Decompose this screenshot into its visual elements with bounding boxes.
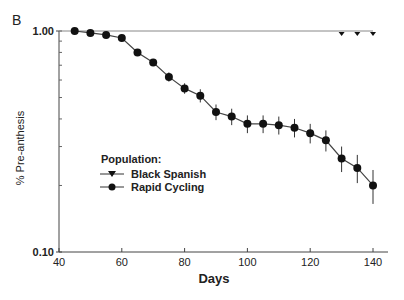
y-tick-label: 1.00 (33, 25, 54, 37)
data-point-rapid-cycling (259, 120, 267, 128)
data-point-rapid-cycling (306, 129, 314, 137)
data-point-rapid-cycling (165, 73, 173, 81)
data-point-rapid-cycling (102, 31, 110, 39)
data-point-rapid-cycling (118, 34, 126, 42)
data-point-rapid-cycling (86, 29, 94, 37)
legend-item-rapid-cycling: Rapid Cycling (100, 181, 204, 193)
data-point-rapid-cycling (149, 59, 157, 67)
data-point-rapid-cycling (291, 124, 299, 132)
data-point-rapid-cycling (369, 181, 377, 189)
legend-item-black-spanish: Black Spanish (100, 168, 206, 180)
circle-marker-icon (109, 184, 116, 191)
data-point-rapid-cycling (228, 113, 236, 121)
x-axis-title: Days (198, 271, 229, 286)
data-point-rapid-cycling (71, 27, 79, 35)
data-point-rapid-cycling (322, 136, 330, 144)
data-point-black-spanish (339, 32, 345, 36)
data-point-rapid-cycling (134, 48, 142, 56)
x-tick-label: 140 (364, 256, 382, 268)
data-point-black-spanish (370, 32, 376, 36)
chart: B 4060801001201400.101.00 % Pre-anthesis… (0, 0, 404, 300)
axes: 4060801001201400.101.00 (33, 25, 388, 268)
data-point-rapid-cycling (243, 120, 251, 128)
data-point-rapid-cycling (212, 108, 220, 116)
data-point-rapid-cycling (181, 84, 189, 92)
y-axis-title: % Pre-anthesis (14, 110, 26, 185)
legend-label: Rapid Cycling (131, 181, 204, 193)
data-point-rapid-cycling (338, 154, 346, 162)
panel-label: B (12, 12, 21, 28)
x-tick-label: 80 (178, 256, 190, 268)
legend: Population: Black Spanish Rapid Cycling (100, 153, 206, 193)
data-point-rapid-cycling (196, 92, 204, 100)
x-tick-label: 120 (301, 256, 319, 268)
x-tick-label: 40 (53, 256, 65, 268)
x-tick-label: 100 (238, 256, 256, 268)
legend-title: Population: (101, 153, 162, 165)
legend-label: Black Spanish (131, 168, 206, 180)
data-point-black-spanish (354, 32, 360, 36)
x-tick-label: 60 (116, 256, 128, 268)
plot-area (59, 27, 377, 204)
data-point-rapid-cycling (353, 164, 361, 172)
y-tick-label: 0.10 (33, 246, 54, 258)
data-point-rapid-cycling (275, 121, 283, 129)
